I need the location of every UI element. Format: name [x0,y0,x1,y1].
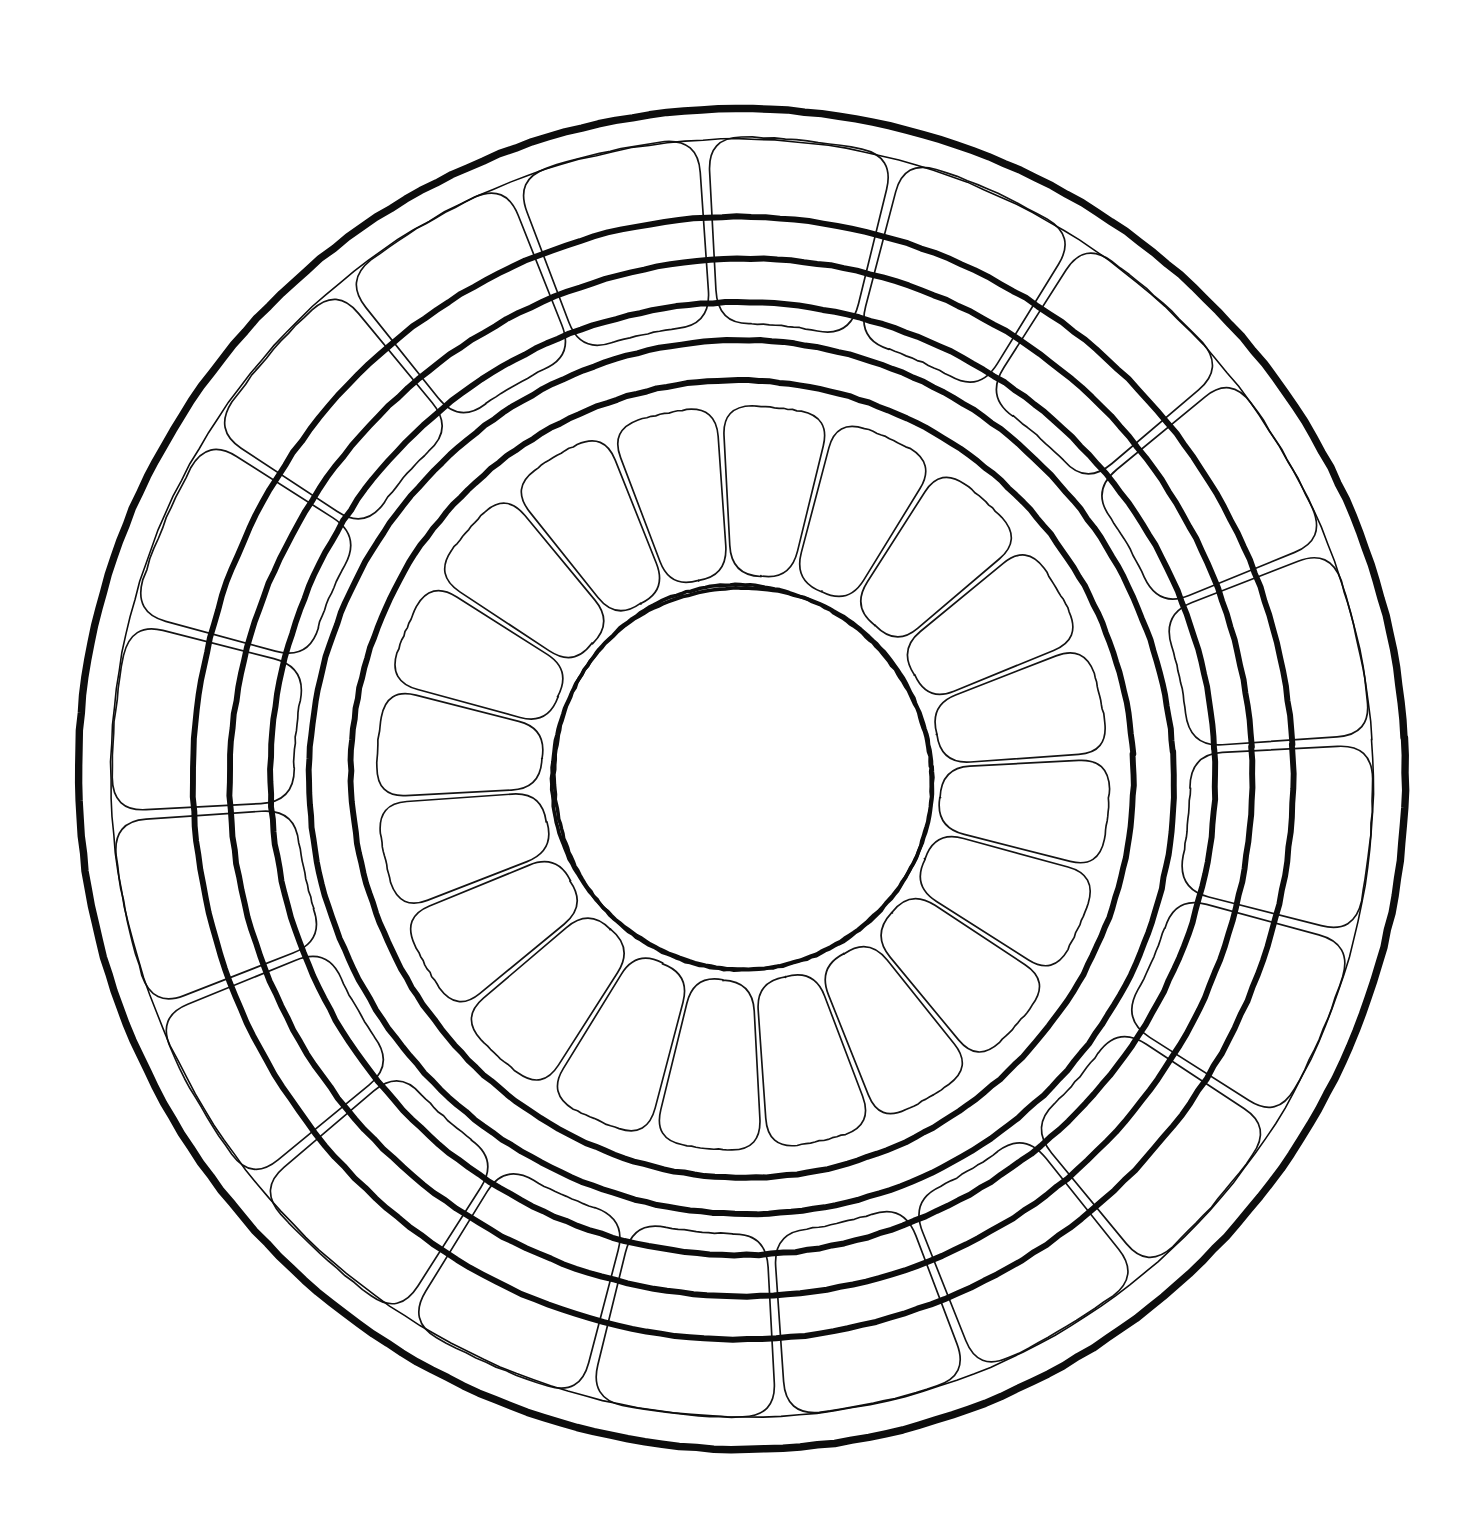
figure-root [0,0,1470,1536]
cross-section-diagram [0,0,1470,1536]
